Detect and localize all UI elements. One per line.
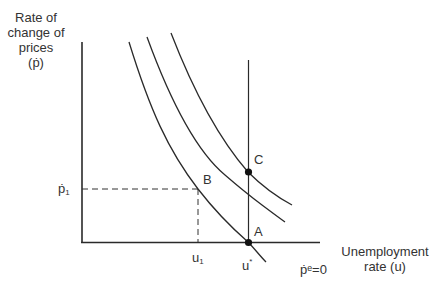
x-tick-ustar-superscript: *: [249, 257, 252, 266]
x-tick-u1-subscript: 1: [199, 257, 203, 266]
y-axis-label-line-4: (ṗ): [6, 55, 66, 70]
x-tick-ustar: u*: [242, 254, 252, 273]
y-tick-p1-subscript: 1: [65, 188, 69, 197]
y-axis-label-line-1: Rate of: [6, 10, 66, 25]
point-a-dot: [245, 239, 252, 246]
point-a-label: A: [254, 224, 263, 239]
x-axis-label-line-2: rate (u): [335, 259, 435, 274]
y-axis-label-line-2: change of: [6, 25, 66, 40]
x-axis-label: Unemployment rate (u): [335, 244, 435, 274]
short-run-curve-middle: [147, 37, 285, 222]
point-b-label: B: [203, 172, 212, 187]
point-c-label: C: [254, 152, 263, 167]
expected-inflation-label: ṗᵉ=0: [300, 262, 327, 277]
x-axis-label-line-1: Unemployment: [335, 244, 435, 259]
y-tick-p1: ṗ1: [58, 181, 70, 200]
point-c-dot: [245, 168, 252, 175]
y-axis-label: Rate of change of prices (ṗ): [6, 10, 66, 70]
y-axis-label-line-3: prices: [6, 40, 66, 55]
short-run-curve-highest: [171, 33, 292, 205]
x-tick-u1: u1: [192, 250, 204, 269]
